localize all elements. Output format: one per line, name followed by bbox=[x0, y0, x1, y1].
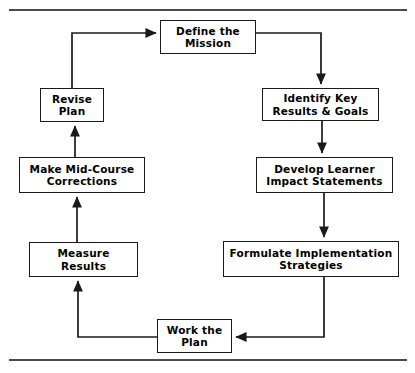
node-label: Measure Results bbox=[57, 247, 109, 272]
flowchart-canvas: Define the Mission Identify Key Results … bbox=[0, 0, 415, 373]
node-identify-key-results-goals[interactable]: Identify Key Results & Goals bbox=[262, 88, 379, 121]
node-measure-results[interactable]: Measure Results bbox=[29, 242, 138, 277]
edge-work-to-measure bbox=[78, 281, 157, 337]
node-develop-learner-impact-statements[interactable]: Develop Learner Impact Statements bbox=[256, 157, 393, 193]
node-label: Develop Learner Impact Statements bbox=[266, 163, 382, 188]
node-work-the-plan[interactable]: Work the Plan bbox=[157, 319, 232, 353]
node-define-the-mission[interactable]: Define the Mission bbox=[160, 20, 256, 54]
node-label: Make Mid-Course Corrections bbox=[30, 163, 135, 188]
node-label: Revise Plan bbox=[52, 93, 92, 118]
node-label: Formulate Implementation Strategies bbox=[230, 247, 393, 272]
node-make-mid-course-corrections[interactable]: Make Mid-Course Corrections bbox=[19, 157, 145, 193]
node-revise-plan[interactable]: Revise Plan bbox=[40, 88, 104, 122]
node-label: Work the Plan bbox=[167, 324, 222, 349]
node-label: Identify Key Results & Goals bbox=[272, 92, 368, 117]
node-formulate-implementation-strategies[interactable]: Formulate Implementation Strategies bbox=[223, 241, 399, 277]
edge-define-to-identify bbox=[256, 33, 321, 84]
node-label: Define the Mission bbox=[176, 25, 240, 50]
edge-formulate-to-work bbox=[236, 277, 324, 337]
edge-revise-to-define bbox=[72, 33, 156, 88]
